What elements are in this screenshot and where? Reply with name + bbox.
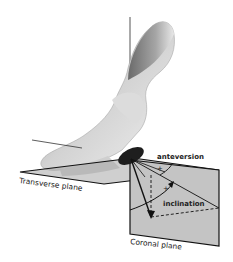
anteversion-label: anteversion [157, 153, 204, 161]
plus-anteversion: + [157, 165, 163, 173]
pelvis-bone [41, 22, 175, 176]
pelvis-orientation-diagram: + + anteversion inclination Transverse p… [0, 0, 233, 262]
inclination-label: inclination [163, 200, 205, 208]
plus-inclination: + [163, 185, 169, 193]
